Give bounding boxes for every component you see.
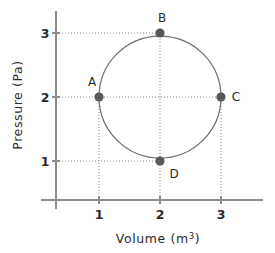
- chart-plot-area: 3 2 1 1 2 3 A B C D Pressure (Pa) Volume…: [0, 0, 275, 253]
- gridline-group-horizontal: [56, 33, 221, 161]
- data-point-label-d: D: [169, 167, 178, 181]
- x-axis-title-base: Volume (m: [116, 231, 189, 246]
- pressure-volume-chart: 3 2 1 1 2 3 A B C D Pressure (Pa) Volume…: [0, 0, 275, 253]
- data-point-label-b: B: [158, 11, 166, 25]
- x-tick-label-2: 2: [156, 207, 165, 222]
- data-point-d: [155, 156, 164, 165]
- x-tick-label-3: 3: [217, 207, 226, 222]
- data-point-label-c: C: [232, 90, 240, 104]
- y-tick-label-2: 2: [41, 90, 50, 105]
- data-point-label-a: A: [88, 75, 97, 89]
- x-axis-title: Volume (m3): [116, 231, 200, 246]
- x-axis-title-close: ): [195, 231, 200, 246]
- gridline-group-vertical: [99, 33, 221, 200]
- data-point-b: [155, 28, 164, 37]
- data-point-c: [216, 92, 225, 101]
- x-tick-label-1: 1: [95, 207, 104, 222]
- y-axis-title: Pressure (Pa): [10, 60, 25, 150]
- y-tick-label-3: 3: [41, 26, 50, 41]
- y-tick-label-1: 1: [41, 154, 50, 169]
- data-point-a: [94, 92, 103, 101]
